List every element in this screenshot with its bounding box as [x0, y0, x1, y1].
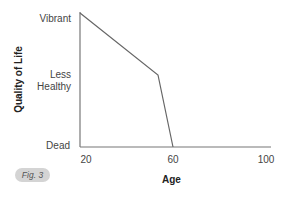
y-tick-healthy: Healthy	[18, 81, 71, 93]
y-tick-vibrant: Vibrant	[18, 13, 71, 25]
y-tick-less: Less	[18, 69, 71, 81]
quality-of-life-line	[80, 13, 173, 147]
x-tick-60: 60	[161, 154, 185, 165]
figure-label-badge: Fig. 3	[15, 168, 50, 182]
x-tick-20: 20	[74, 154, 98, 165]
x-tick-100: 100	[252, 154, 280, 165]
y-axis-title: Quality of Life	[13, 40, 24, 120]
y-tick-dead: Dead	[18, 140, 70, 152]
x-axis-title: Age	[162, 174, 181, 185]
